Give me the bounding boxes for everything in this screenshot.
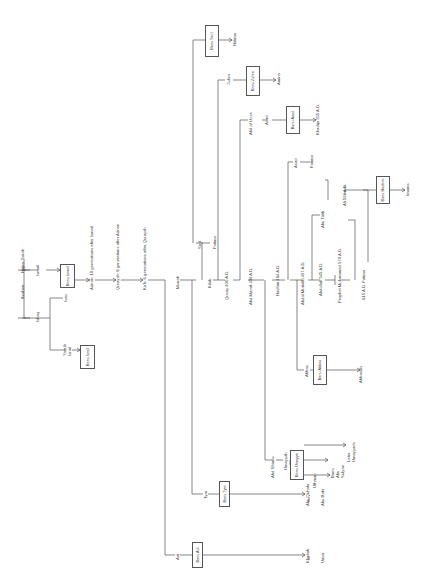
node-umar: Umar [320, 553, 325, 563]
node-kab: Ka'b: 6 generations after Quraysh [142, 228, 147, 291]
box-banu-taym: Banu Tym [219, 481, 230, 507]
node-abu-talib: Abu Talib [320, 211, 325, 228]
node-abd-shams: Abd Shams [270, 456, 275, 478]
node-asad2: Asad [293, 158, 298, 168]
node-ishaq: Ishaq [35, 312, 40, 322]
node-abbasids: Abbasids [358, 366, 363, 383]
node-khattab: Khattab [305, 549, 310, 563]
node-taym: Tym [203, 491, 208, 499]
box-banu-abbas: Banu Abbas [313, 355, 327, 385]
node-abd-al-uzza: Abd al Uzza [248, 112, 253, 135]
node-amina: Amina [276, 73, 281, 85]
node-said: Sa'd [197, 241, 202, 249]
box-banu-umayya: Banu Umayya [290, 450, 304, 480]
connector-lines [0, 0, 435, 576]
node-quraysh: Quraysh: 8 generations after Adnan [115, 224, 120, 290]
box-banu-asad: Banu Asad [286, 106, 300, 134]
node-zuhra: Zuhra [226, 74, 231, 85]
node-yaqub: Yaqub Israil [62, 344, 72, 356]
box-banu-sad: Banu Sa'd [205, 25, 219, 57]
node-fatima1: Fatima [212, 236, 217, 249]
box-banu-adi: Banu Adi [192, 542, 203, 568]
node-abu-bakr: Abu Bakr [320, 489, 325, 506]
node-uthman: Uthman [312, 473, 317, 488]
box-banu-israil: Banu Israil [80, 345, 95, 369]
node-abdullah: Abdullah 545 A.D. [318, 262, 323, 296]
node-ali: Ali 599 A.D. [342, 184, 347, 206]
box-banu-hashim: Banu Hashim [376, 176, 390, 204]
node-prophet: Prophet Muhammad 570 A.D. [337, 248, 342, 303]
node-adi: Adi [175, 554, 180, 560]
node-later-umayyads: Later Umayyads [346, 450, 356, 462]
node-qusay: Qusay 400 A.D. [224, 271, 229, 300]
node-abdal-muttalib: Abdal Muttalib 497 A.D. [300, 261, 305, 305]
node-umayyah: Umayyah [283, 452, 288, 470]
node-hashim: Hashim 464 A.D. [275, 265, 280, 296]
node-imams: Imams [405, 183, 410, 196]
node-fatima3: 615 A.D. Fatima [361, 270, 366, 300]
node-ibrahim: Ibrahim [20, 285, 25, 299]
node-khadija: Khadija 555 A.D. [315, 104, 320, 135]
node-hajira: Hajira [20, 262, 25, 273]
node-abd-manaf: Abd Manaf 430 A.D. [248, 268, 253, 305]
node-adnan: Adnan: 10 generations after Ismail [89, 226, 94, 290]
node-asad1: Asad [264, 115, 269, 125]
node-sarah: Sarah [20, 249, 25, 260]
node-abu-quhafa: Abu Quhafa [305, 484, 310, 506]
node-banu-abu-sufyan: Banu Abu Sufyan [330, 466, 345, 478]
node-isau: Isau [63, 294, 68, 302]
node-halima: Halima [232, 33, 237, 46]
node-ismail: Ismail [35, 265, 40, 276]
node-abbas: Abbas [304, 365, 309, 377]
box-banu-ismail: Banu Ismail [60, 264, 75, 288]
box-banu-zuhra: Banu Zuhra [246, 66, 260, 96]
family-tree-diagram: Sarah Ibrahim Hajira Ishaq Ismail Isau Y… [0, 0, 435, 576]
node-murrah: Murrah [175, 276, 180, 289]
node-kilab: Kilab [207, 279, 212, 288]
node-fatima2: Fatima [309, 155, 314, 168]
